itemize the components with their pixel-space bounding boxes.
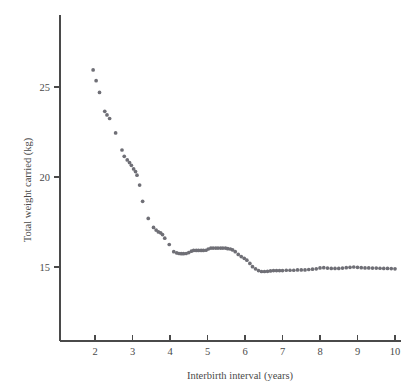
data-point bbox=[161, 233, 165, 237]
data-point bbox=[292, 268, 296, 272]
data-point bbox=[363, 266, 367, 270]
data-point bbox=[152, 226, 156, 230]
data-point bbox=[98, 91, 102, 95]
x-axis-title: Interbirth interval (years) bbox=[187, 370, 294, 382]
tick-marks bbox=[54, 87, 395, 341]
data-point bbox=[367, 266, 371, 270]
data-point bbox=[371, 266, 375, 270]
data-point bbox=[134, 170, 138, 174]
data-point bbox=[105, 113, 109, 117]
data-points bbox=[91, 68, 397, 273]
x-tick-label: 5 bbox=[205, 346, 210, 357]
data-point bbox=[163, 236, 167, 240]
y-tick-label: 20 bbox=[40, 172, 51, 183]
scatter-plot: 1520252345678910 Interbirth interval (ye… bbox=[0, 0, 419, 391]
data-point bbox=[333, 267, 337, 271]
data-point bbox=[341, 266, 345, 270]
x-tick-label: 8 bbox=[317, 346, 322, 357]
data-point bbox=[130, 163, 134, 167]
data-point bbox=[348, 266, 352, 270]
data-point bbox=[296, 268, 300, 272]
data-point bbox=[344, 266, 348, 270]
y-tick-label: 15 bbox=[40, 262, 51, 273]
data-point bbox=[359, 266, 363, 270]
data-point bbox=[393, 267, 397, 271]
data-point bbox=[303, 268, 307, 272]
x-tick-label: 4 bbox=[167, 346, 173, 357]
data-point bbox=[94, 79, 98, 83]
data-point bbox=[322, 266, 326, 270]
data-point bbox=[326, 266, 330, 270]
data-point bbox=[120, 148, 124, 152]
data-point bbox=[138, 183, 142, 187]
data-point bbox=[318, 266, 322, 270]
x-tick-label: 9 bbox=[355, 346, 360, 357]
data-point bbox=[167, 243, 171, 247]
data-point bbox=[307, 268, 311, 272]
data-point bbox=[382, 267, 386, 271]
x-tick-label: 6 bbox=[242, 346, 247, 357]
data-point bbox=[233, 250, 237, 254]
data-point bbox=[141, 199, 145, 203]
data-point bbox=[329, 267, 333, 271]
figure-container: 1520252345678910 Interbirth interval (ye… bbox=[0, 0, 419, 391]
data-point bbox=[389, 267, 393, 271]
x-tick-label: 3 bbox=[130, 346, 135, 357]
x-tick-label: 2 bbox=[92, 346, 97, 357]
x-tick-label: 7 bbox=[280, 346, 285, 357]
data-point bbox=[248, 262, 252, 266]
data-point bbox=[311, 267, 315, 271]
data-point bbox=[374, 266, 378, 270]
tick-labels: 1520252345678910 bbox=[40, 82, 401, 358]
data-point bbox=[281, 269, 285, 273]
data-point bbox=[236, 253, 240, 257]
y-tick-label: 25 bbox=[40, 82, 51, 93]
y-axis-title: Total weight carried (kg) bbox=[22, 137, 34, 242]
data-point bbox=[251, 265, 255, 269]
x-tick-label: 10 bbox=[390, 346, 401, 357]
data-point bbox=[146, 217, 150, 221]
data-point bbox=[299, 268, 303, 272]
data-point bbox=[337, 267, 341, 271]
axes bbox=[60, 15, 401, 341]
data-point bbox=[356, 266, 360, 270]
data-point bbox=[114, 131, 118, 135]
data-point bbox=[284, 268, 288, 272]
data-point bbox=[122, 154, 126, 158]
data-point bbox=[103, 109, 107, 113]
data-point bbox=[135, 173, 139, 177]
data-point bbox=[91, 68, 95, 72]
data-point bbox=[108, 117, 112, 121]
data-point bbox=[245, 258, 249, 262]
data-point bbox=[378, 266, 382, 270]
data-point bbox=[352, 265, 356, 269]
data-point bbox=[386, 267, 390, 271]
data-point bbox=[288, 268, 292, 272]
data-point bbox=[314, 267, 318, 271]
